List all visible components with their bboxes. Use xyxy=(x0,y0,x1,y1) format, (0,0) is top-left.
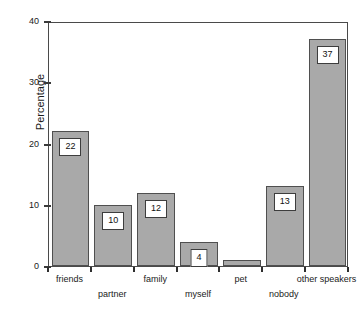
y-tick-mark xyxy=(44,144,51,146)
x-axis-category-label: other speakers xyxy=(297,274,357,284)
bar: 13 xyxy=(266,186,304,266)
y-tick-label: 40 xyxy=(29,16,39,26)
x-axis-category-label: partner xyxy=(98,289,127,299)
bar-series: 22101241337 xyxy=(49,23,347,266)
bar: 22 xyxy=(52,131,90,266)
x-axis-category-label: family xyxy=(143,274,167,284)
x-tick-mark xyxy=(261,267,263,272)
y-tick-label: 30 xyxy=(29,77,39,87)
x-tick-mark xyxy=(304,267,306,272)
plot-area: 22101241337 xyxy=(48,22,348,267)
bar-value-label: 12 xyxy=(145,200,167,218)
y-tick-mark xyxy=(44,21,51,23)
x-tick-mark xyxy=(347,267,349,272)
y-axis-title: Percentage xyxy=(34,32,46,172)
bar-value-label: 10 xyxy=(102,212,124,230)
x-tick-mark xyxy=(218,267,220,272)
bar-value-label: 4 xyxy=(190,249,207,267)
bar: 10 xyxy=(94,205,132,266)
x-axis-category-label: nobody xyxy=(269,289,299,299)
y-tick-mark xyxy=(44,205,51,207)
x-axis-category-label: myself xyxy=(185,289,211,299)
y-tick-label: 20 xyxy=(29,139,39,149)
bar-chart: Percentage 22101241337 010203040 friends… xyxy=(0,0,364,315)
bar-value-label: 13 xyxy=(274,193,296,211)
x-tick-mark xyxy=(133,267,135,272)
y-tick-mark xyxy=(44,82,51,84)
x-axis-category-label: friends xyxy=(56,274,83,284)
x-axis-category-label: pet xyxy=(235,274,248,284)
x-tick-mark xyxy=(90,267,92,272)
bar: 37 xyxy=(309,39,347,266)
x-tick-mark xyxy=(176,267,178,272)
bar-value-label: 22 xyxy=(59,138,81,156)
bar: 12 xyxy=(137,193,175,267)
bar xyxy=(223,260,261,266)
bar: 4 xyxy=(180,242,218,267)
bar-value-label: 37 xyxy=(317,46,339,64)
y-tick-label: 10 xyxy=(29,200,39,210)
x-tick-mark xyxy=(47,267,49,272)
y-tick-label: 0 xyxy=(34,261,39,271)
